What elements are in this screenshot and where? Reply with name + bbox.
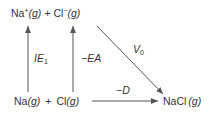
bottom-right-node-label: NaCl(g) [163, 95, 201, 107]
dissociation-label: −D [116, 84, 130, 96]
ionization-energy-label: IE1 [34, 52, 48, 65]
top-node-label: Na+(g)+Cl−(g) [11, 7, 80, 19]
thermochemical-cycle-diagram: Na+(g)+Cl−(g) IE1 −EA V0 Na(g)+Cl(g) −D … [0, 0, 213, 113]
coulomb-energy-arrow [97, 26, 163, 94]
coulomb-energy-label: V0 [133, 43, 144, 56]
bottom-left-node-label: Na(g)+Cl(g) [14, 95, 79, 107]
electron-affinity-label: −EA [81, 52, 101, 64]
